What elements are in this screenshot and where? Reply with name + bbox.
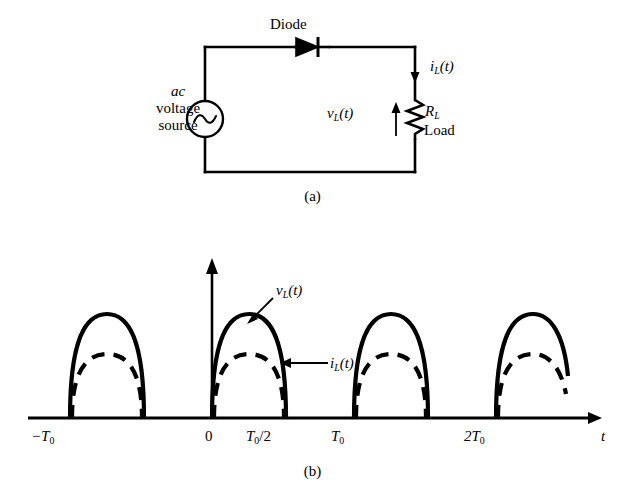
x-axis-title: t [601, 428, 605, 445]
x-tick-label-t0: T0 [331, 428, 344, 446]
voltage-curve-label: vL(t) [276, 282, 302, 300]
x-tick-2t0-sub: 0 [480, 435, 485, 446]
current-curve-arg: (t) [340, 355, 354, 371]
voltage-curve-symbol: v [276, 282, 283, 298]
current-pulse-4-truncated [498, 354, 566, 418]
x-tick-neg-t0-sub: 0 [49, 435, 54, 446]
voltage-pulse-4-truncated [496, 314, 568, 418]
x-tick-t0-sub: 0 [339, 435, 344, 446]
current-pulse-2 [214, 354, 284, 418]
x-tick-label-t0-half: T0/2 [246, 428, 271, 446]
current-curve-label: iL(t) [330, 355, 354, 373]
x-tick-label-neg-t0: −T0 [31, 428, 54, 446]
voltage-curve-arg: (t) [288, 282, 302, 298]
plot-axes [28, 258, 602, 424]
caption-panel-b: (b) [0, 463, 625, 480]
current-pulse-3 [356, 354, 426, 418]
voltage-label-leader [247, 298, 273, 324]
x-tick-label-zero: 0 [205, 428, 213, 445]
x-tick-t0half-suffix: /2 [259, 428, 271, 444]
figure-half-wave-rectifier: Diode ac voltage source iL(t) vL(t) RL L… [0, 0, 625, 495]
waveform-plot [0, 0, 625, 495]
voltage-waveform [70, 314, 568, 418]
x-axis-arrowhead [588, 412, 602, 424]
y-axis-arrowhead [206, 258, 218, 274]
x-tick-label-2t0: 2T0 [464, 428, 485, 446]
current-pulse-1 [72, 354, 142, 418]
x-tick-zero-main: 0 [205, 428, 213, 444]
x-tick-neg-t0-main: −T [31, 428, 49, 444]
x-tick-2t0-main: 2T [464, 428, 480, 444]
current-label-leader [280, 358, 328, 368]
